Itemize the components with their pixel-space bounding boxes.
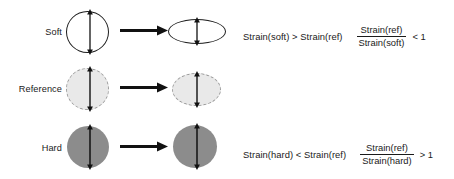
diagram-row-soft: Soft Strain(soft) > Strain(ref) bbox=[0, 0, 454, 60]
hard-undeformed-shape-slot bbox=[64, 116, 116, 179]
soft-transformation-arrow-icon bbox=[120, 25, 168, 36]
soft-fraction-numerator: Strain(ref) bbox=[359, 24, 405, 36]
soft-inequality: Strain(soft) > Strain(ref) bbox=[243, 31, 343, 42]
row-label-soft: Soft bbox=[0, 27, 62, 37]
hard-deformed-strain-arrow-icon bbox=[193, 123, 202, 170]
reference-deformed-shape-slot bbox=[168, 58, 226, 118]
hard-equation: Strain(hard) < Strain(ref) Strain(ref) S… bbox=[243, 142, 433, 166]
hard-fraction: Strain(ref) Strain(hard) bbox=[360, 142, 414, 166]
reference-deformed-strain-arrow-icon bbox=[193, 71, 202, 108]
strain-comparison-diagram: Soft Strain(soft) > Strain(ref) bbox=[0, 0, 454, 179]
hard-inequality: Strain(hard) < Strain(ref) bbox=[243, 149, 346, 160]
soft-fraction: Strain(ref) Strain(soft) bbox=[357, 24, 407, 48]
soft-strain-ratio: Strain(ref) Strain(soft) < 1 bbox=[357, 24, 426, 48]
reference-undeformed-strain-arrow-icon bbox=[86, 66, 95, 112]
hard-undeformed-strain-arrow-icon bbox=[86, 124, 95, 170]
diagram-row-hard: Hard Strain(hard) < Strain(ref) bbox=[0, 116, 454, 179]
row-label-reference: Reference bbox=[0, 84, 62, 94]
hard-ratio-comparison: > 1 bbox=[419, 149, 433, 160]
soft-deformed-shape-slot bbox=[168, 0, 226, 60]
hard-fraction-numerator: Strain(ref) bbox=[364, 142, 410, 154]
hard-strain-ratio: Strain(ref) Strain(hard) > 1 bbox=[360, 142, 433, 166]
soft-equation: Strain(soft) > Strain(ref) Strain(ref) S… bbox=[243, 24, 426, 48]
hard-fraction-denominator: Strain(hard) bbox=[360, 155, 414, 167]
soft-deformed-strain-arrow-icon bbox=[193, 17, 202, 46]
soft-ratio-comparison: < 1 bbox=[411, 31, 425, 42]
hard-deformed-shape-slot bbox=[168, 116, 226, 179]
reference-undeformed-shape-slot bbox=[64, 58, 116, 118]
reference-transformation-arrow-icon bbox=[120, 82, 168, 93]
diagram-row-reference: Reference bbox=[0, 58, 454, 118]
soft-fraction-denominator: Strain(soft) bbox=[357, 37, 407, 49]
hard-transformation-arrow-icon bbox=[120, 141, 168, 152]
soft-undeformed-shape-slot bbox=[64, 0, 116, 60]
soft-undeformed-strain-arrow-icon bbox=[86, 9, 95, 55]
row-label-hard: Hard bbox=[0, 143, 62, 153]
